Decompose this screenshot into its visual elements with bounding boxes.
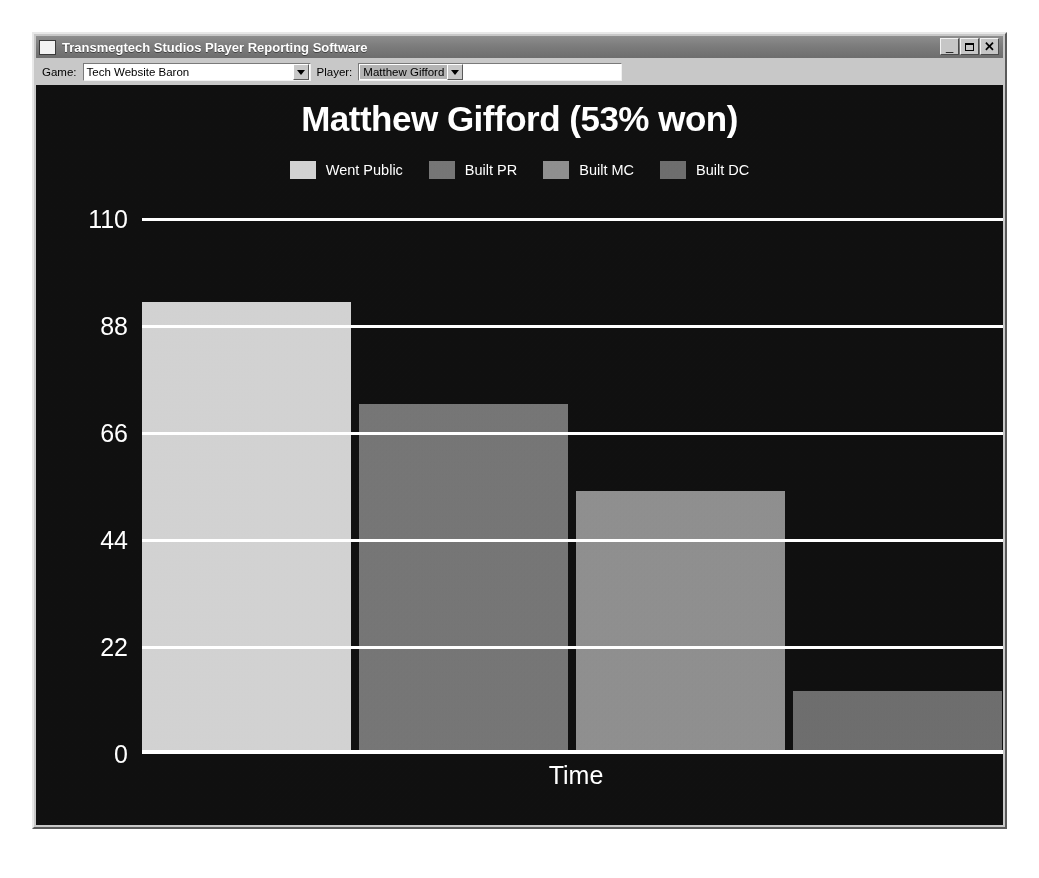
legend-label: Built MC	[579, 162, 634, 178]
selector-toolbar: Game: Tech Website Baron Player: Matthew…	[36, 59, 1003, 85]
gridline	[142, 432, 1003, 435]
y-axis-tick-label: 110	[88, 205, 128, 234]
y-axis-tick-label: 66	[100, 419, 128, 448]
chart-legend: Went PublicBuilt PRBuilt MCBuilt DC	[36, 161, 1003, 179]
y-axis-tick-label: 0	[114, 740, 128, 769]
chart-title: Matthew Gifford (53% won)	[36, 99, 1003, 139]
bar	[793, 691, 1002, 754]
legend-item: Built MC	[543, 161, 634, 179]
window-titlebar[interactable]: Transmegtech Studios Player Reporting So…	[36, 36, 1003, 58]
game-dropdown[interactable]: Tech Website Baron	[83, 63, 311, 81]
legend-swatch	[660, 161, 686, 179]
window-title: Transmegtech Studios Player Reporting So…	[62, 40, 368, 55]
player-dropdown[interactable]: Matthew Gifford	[358, 63, 622, 81]
gridline	[142, 218, 1003, 221]
close-icon: ✕	[981, 39, 998, 54]
plot-area: 022446688110	[142, 219, 1003, 754]
player-label: Player:	[317, 66, 353, 78]
app-screenshot: Transmegtech Studios Player Reporting So…	[0, 0, 1039, 878]
maximize-button[interactable]	[960, 38, 979, 55]
gridline	[142, 325, 1003, 328]
chart-canvas: Matthew Gifford (53% won) Went PublicBui…	[36, 85, 1003, 825]
application-window: Transmegtech Studios Player Reporting So…	[32, 32, 1007, 829]
legend-item: Went Public	[290, 161, 403, 179]
minimize-icon: _	[941, 39, 958, 54]
legend-item: Built PR	[429, 161, 517, 179]
game-label: Game:	[42, 66, 77, 78]
bar-group	[142, 219, 1003, 754]
y-axis-tick-label: 22	[100, 633, 128, 662]
x-axis-line	[142, 750, 1003, 754]
legend-label: Went Public	[326, 162, 403, 178]
game-dropdown-value: Tech Website Baron	[84, 66, 293, 78]
bar	[359, 404, 568, 754]
x-axis-label: Time	[142, 761, 1003, 790]
player-dropdown-value: Matthew Gifford	[360, 65, 447, 79]
legend-swatch	[429, 161, 455, 179]
gridline	[142, 646, 1003, 649]
gridline	[142, 539, 1003, 542]
app-icon	[39, 40, 56, 55]
chevron-down-icon[interactable]	[447, 64, 463, 80]
y-axis-tick-label: 44	[100, 526, 128, 555]
bar	[142, 302, 351, 754]
legend-label: Built DC	[696, 162, 749, 178]
window-controls: _ ✕	[940, 38, 999, 55]
close-button[interactable]: ✕	[980, 38, 999, 55]
bar	[576, 491, 785, 754]
maximize-icon	[961, 39, 978, 54]
y-axis-tick-label: 88	[100, 312, 128, 341]
legend-swatch	[543, 161, 569, 179]
legend-item: Built DC	[660, 161, 749, 179]
legend-swatch	[290, 161, 316, 179]
minimize-button[interactable]: _	[940, 38, 959, 55]
legend-label: Built PR	[465, 162, 517, 178]
chevron-down-icon[interactable]	[293, 64, 309, 80]
